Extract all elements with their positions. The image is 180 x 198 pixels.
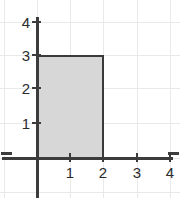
y-tick-4 <box>32 21 41 23</box>
x-tick-2 <box>102 153 104 162</box>
shaded-rectangle <box>37 55 104 159</box>
coordinate-plane-figure: 1 2 3 4 1 2 3 4 <box>0 0 180 198</box>
x-tick-4 <box>169 153 171 162</box>
x-tick-label-3: 3 <box>129 165 145 180</box>
x-tick-3 <box>136 153 138 162</box>
y-tick-2 <box>32 87 41 89</box>
y-tick-1 <box>32 122 41 124</box>
x-tick-label-2: 2 <box>95 165 111 180</box>
y-tick-3 <box>32 54 41 56</box>
x-tick-label-4: 4 <box>162 165 178 180</box>
x-tick-1 <box>69 153 71 162</box>
y-tick-label-2: 2 <box>14 81 30 96</box>
y-tick-label-4: 4 <box>14 15 30 30</box>
x-axis-left-cap <box>1 152 12 155</box>
y-axis-bottom-cap <box>36 187 39 198</box>
x-tick-label-1: 1 <box>62 165 78 180</box>
gridline-vertical <box>4 0 5 198</box>
y-tick-label-1: 1 <box>14 116 30 131</box>
x-axis <box>2 157 173 160</box>
y-tick-label-3: 3 <box>14 48 30 63</box>
y-axis <box>36 21 39 192</box>
gridline-horizontal <box>0 192 180 193</box>
